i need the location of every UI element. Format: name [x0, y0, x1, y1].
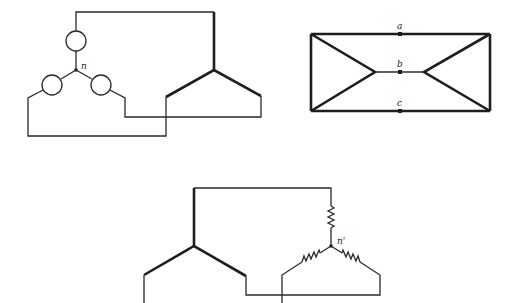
wire-left-phase-2 [282, 262, 302, 303]
wye-source-to-delta-diagram: n [28, 12, 261, 136]
voltage-source-left [42, 75, 62, 95]
delta-winding-arms [166, 70, 261, 97]
node-a [398, 32, 402, 36]
wire-neutral-to-left-source [61, 70, 76, 79]
circuit-figure: n a b c n [0, 0, 516, 303]
wire-neutral-to-left-resistor [320, 246, 331, 253]
right-delta-inner [424, 34, 490, 111]
neutral-label-n-prime: n' [337, 236, 345, 246]
resistor-right [342, 250, 360, 262]
node-label-b: b [397, 59, 403, 69]
wire-right-phase [110, 90, 261, 117]
node-b [398, 70, 402, 74]
delta-delta-diagram: a b c [311, 21, 490, 113]
wire-neutral-to-right-source [76, 70, 92, 79]
wire-neutral-to-right-resistor [331, 246, 342, 253]
wire-top-phase-2 [194, 188, 331, 206]
left-delta-inner [311, 34, 375, 111]
wire-top-phase [76, 12, 214, 31]
voltage-source-top [66, 31, 86, 51]
voltage-source-right [91, 75, 111, 95]
delta-winding-arms-2 [144, 246, 246, 276]
neutral-label-n: n [81, 61, 87, 71]
node-c [398, 109, 402, 113]
delta-to-wye-load-diagram: n' [144, 188, 380, 303]
wire-left-phase [28, 90, 166, 136]
node-label-c: c [397, 98, 402, 108]
wire-right-phase-2 [246, 262, 380, 295]
resistor-top [328, 206, 334, 228]
node-label-a: a [397, 21, 402, 31]
resistor-left [302, 250, 320, 262]
